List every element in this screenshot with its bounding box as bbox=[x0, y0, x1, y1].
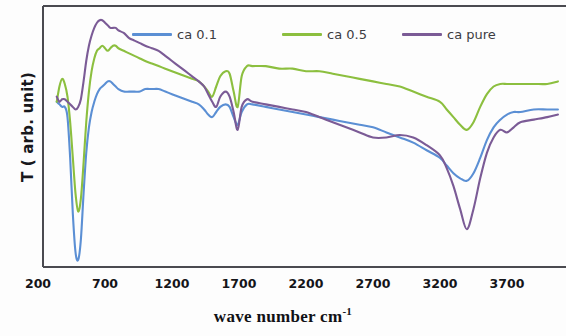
x-tick-2700: 2700 bbox=[356, 276, 391, 291]
x-axis-label-exponent: -1 bbox=[342, 305, 352, 317]
legend-line-icon bbox=[282, 33, 322, 36]
legend-label: ca pure bbox=[447, 27, 496, 42]
x-tick-1700: 1700 bbox=[222, 276, 257, 291]
legend-item-ca-pure[interactable]: ca pure bbox=[402, 27, 496, 42]
legend-label: ca 0.1 bbox=[177, 27, 217, 42]
legend-line-icon bbox=[402, 33, 442, 36]
x-axis-label: wave number cm-1 bbox=[0, 305, 566, 327]
chart-figure: T ( arb. unit) 2007001200170022002700320… bbox=[0, 0, 566, 336]
plot-canvas bbox=[0, 0, 566, 290]
data-curves bbox=[57, 20, 558, 261]
x-axis-label-text: wave number cm bbox=[214, 307, 343, 326]
legend-item-ca-0-1[interactable]: ca 0.1 bbox=[132, 27, 217, 42]
x-tick-2200: 2200 bbox=[289, 276, 324, 291]
series-line-ca-pure bbox=[57, 20, 558, 229]
x-tick-700: 700 bbox=[92, 276, 118, 291]
x-tick-1200: 1200 bbox=[155, 276, 190, 291]
legend-item-ca-0-5[interactable]: ca 0.5 bbox=[282, 27, 367, 42]
legend-label: ca 0.5 bbox=[327, 27, 367, 42]
series-line-ca-0-5 bbox=[57, 45, 558, 211]
x-tick-200: 200 bbox=[25, 276, 51, 291]
x-tick-3200: 3200 bbox=[423, 276, 458, 291]
x-tick-3700: 3700 bbox=[490, 276, 525, 291]
legend-line-icon bbox=[132, 33, 172, 36]
